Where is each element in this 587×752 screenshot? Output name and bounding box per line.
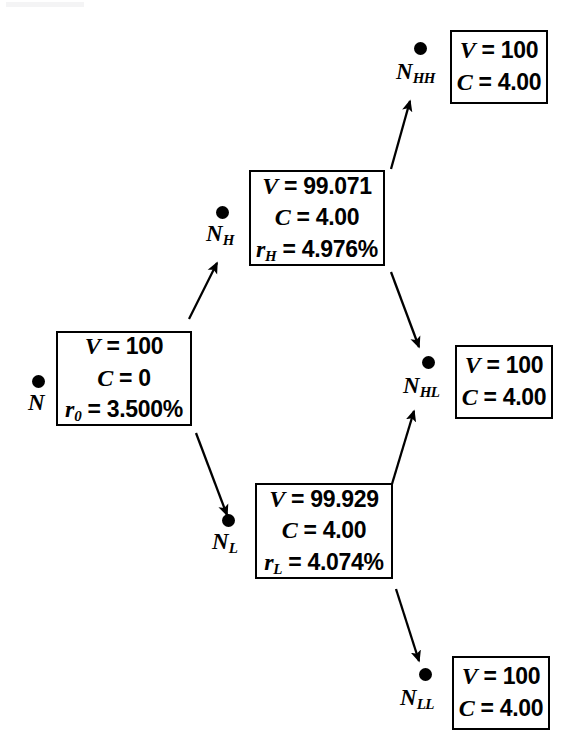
value-line: C = 4.00: [459, 693, 544, 725]
value-symbol-base: C: [459, 695, 475, 721]
node-label-nll: NLL: [400, 686, 434, 709]
node-label-base: N: [212, 529, 229, 554]
tree-edge-nl-to-nll: [396, 589, 419, 661]
tree-edge-n-to-nl: [196, 433, 227, 515]
value-box-n: V = 100C = 0r0 = 3.500%: [56, 331, 192, 426]
value-line: V = 100: [85, 331, 164, 363]
value-text: = 0: [113, 365, 151, 391]
tree-edge-nh-to-nhl: [391, 272, 419, 347]
value-line: C = 4.00: [282, 515, 367, 547]
node-dot-nh: [216, 206, 229, 219]
value-symbol-subscript: 0: [74, 408, 81, 424]
tree-edge-nh-to-nhh: [391, 101, 410, 169]
node-label-base: N: [403, 373, 420, 398]
value-text: = 99.071: [278, 173, 372, 199]
value-text: = 4.074%: [282, 549, 384, 575]
node-label-base: N: [28, 390, 45, 415]
value-line: rH = 4.976%: [256, 234, 378, 266]
value-symbol-base: V: [462, 663, 478, 689]
value-line: C = 4.00: [462, 382, 547, 414]
value-box-nhl: V = 100C = 4.00: [455, 345, 553, 419]
node-label-base: N: [396, 59, 413, 84]
value-symbol-subscript: H: [265, 248, 276, 264]
value-symbol-base: C: [97, 365, 113, 391]
value-symbol: V: [460, 37, 476, 63]
node-label-nh: NH: [206, 222, 234, 245]
value-symbol-base: V: [85, 333, 101, 359]
value-line: V = 100: [460, 35, 539, 67]
value-symbol-base: V: [465, 352, 481, 378]
value-symbol-base: V: [269, 486, 285, 512]
value-symbol-base: r: [264, 549, 273, 575]
tree-edge-nl-to-nhl: [392, 411, 414, 484]
value-symbol: V: [262, 173, 278, 199]
node-dot-nll: [419, 668, 432, 681]
value-symbol-base: C: [282, 517, 298, 543]
node-label-n: N: [28, 391, 45, 414]
node-label-base: N: [206, 221, 223, 246]
node-dot-nl: [222, 514, 235, 527]
node-label-subscript: HH: [413, 70, 435, 86]
value-symbol: r0: [65, 396, 81, 422]
value-text: = 3.500%: [81, 396, 183, 422]
value-symbol: C: [457, 69, 473, 95]
value-text: = 4.00: [290, 204, 359, 230]
value-line: C = 4.00: [457, 67, 542, 99]
value-text: = 4.00: [297, 517, 366, 543]
value-symbol-base: V: [262, 173, 278, 199]
binomial-interest-rate-tree: NV = 100C = 0r0 = 3.500%NHV = 99.071C = …: [0, 0, 587, 752]
node-label-subscript: LL: [417, 696, 434, 712]
value-symbol-base: C: [457, 69, 473, 95]
node-label-base: N: [400, 685, 417, 710]
value-text: = 100: [480, 352, 543, 378]
value-symbol: C: [275, 204, 291, 230]
value-text: = 100: [100, 333, 163, 359]
node-dot-n: [32, 375, 45, 388]
value-symbol: C: [97, 365, 113, 391]
tree-edge-n-to-nh: [189, 263, 217, 319]
node-dot-nhh: [414, 42, 427, 55]
node-label-nhl: NHL: [403, 374, 439, 397]
value-line: C = 4.00: [275, 202, 360, 234]
value-symbol: rH: [256, 236, 276, 262]
value-line: r0 = 3.500%: [65, 394, 183, 426]
node-dot-nhl: [422, 356, 435, 369]
value-symbol-base: C: [462, 384, 478, 410]
value-line: V = 99.929: [269, 484, 379, 516]
value-symbol-base: r: [65, 396, 74, 422]
value-text: = 4.00: [472, 69, 541, 95]
value-box-nhh: V = 100C = 4.00: [450, 30, 548, 104]
value-line: V = 100: [462, 661, 541, 693]
node-label-subscript: H: [223, 232, 234, 248]
value-symbol: C: [462, 384, 478, 410]
value-line: V = 100: [465, 350, 544, 382]
value-text: = 100: [477, 663, 540, 689]
value-symbol: V: [465, 352, 481, 378]
value-box-nl: V = 99.929C = 4.00rL = 4.074%: [255, 483, 393, 579]
value-line: V = 99.071: [262, 171, 372, 203]
value-symbol-base: V: [460, 37, 476, 63]
value-text: = 4.00: [474, 695, 543, 721]
value-symbol: C: [282, 517, 298, 543]
value-line: C = 0: [97, 363, 151, 395]
value-symbol-base: C: [275, 204, 291, 230]
value-text: = 4.976%: [276, 236, 378, 262]
value-text: = 4.00: [477, 384, 546, 410]
value-symbol: V: [85, 333, 101, 359]
value-box-nll: V = 100C = 4.00: [452, 656, 550, 730]
value-symbol: C: [459, 695, 475, 721]
value-symbol: V: [462, 663, 478, 689]
node-label-subscript: HL: [420, 384, 440, 400]
value-text: = 99.929: [285, 486, 379, 512]
value-symbol: rL: [264, 549, 282, 575]
node-label-subscript: L: [229, 540, 238, 556]
value-text: = 100: [475, 37, 538, 63]
value-line: rL = 4.074%: [264, 547, 383, 579]
node-label-nhh: NHH: [396, 60, 435, 83]
node-label-nl: NL: [212, 530, 237, 553]
value-box-nh: V = 99.071C = 4.00rH = 4.976%: [249, 170, 385, 266]
value-symbol-base: r: [256, 236, 265, 262]
value-symbol-subscript: L: [273, 561, 282, 577]
value-symbol: V: [269, 486, 285, 512]
